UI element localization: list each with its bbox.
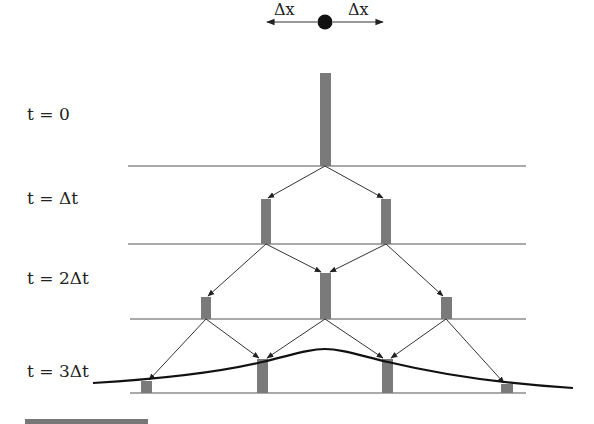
arrow-t1-right-to-center <box>330 244 386 272</box>
bar-t1-right <box>381 199 391 244</box>
footer-bar <box>25 419 148 424</box>
dx-right-text: Δx <box>348 0 369 19</box>
arrow-t0-t1-right <box>325 166 383 198</box>
gaussian-curve <box>93 349 573 388</box>
time-label-t3-text: t = 3Δt <box>27 361 89 381</box>
bar-t2-right <box>441 297 452 319</box>
dx-left-label: Δx <box>274 0 295 19</box>
dx-left-text: Δx <box>274 0 295 19</box>
arrow-t2-right-to-far-right <box>446 319 504 383</box>
bar-t1-left <box>261 199 271 244</box>
arrow-t2-left-to-far-left <box>149 319 206 380</box>
bar-t3-right <box>382 359 393 393</box>
time-label-t3: t = 3Δt <box>27 361 89 381</box>
bar-t3-far-left <box>141 381 152 393</box>
bar-t3-far-right <box>501 384 513 393</box>
particle-dot <box>318 15 333 30</box>
arrow-t1-right-to-right <box>386 244 443 296</box>
dx-right-label: Δx <box>348 0 369 19</box>
bar-t2-left <box>201 297 211 319</box>
arrow-t1-left-to-center <box>266 244 321 272</box>
bar-t2-center <box>320 273 331 319</box>
arrow-t2-center-to-left <box>267 319 325 358</box>
arrow-t2-right-to-right <box>391 319 446 358</box>
arrow-t2-center-to-right <box>325 319 383 358</box>
time-label-t2: t = 2Δt <box>27 268 89 288</box>
time-label-t0: t = 0 <box>27 104 70 124</box>
probability-bars <box>141 73 513 393</box>
arrow-t0-t1-left <box>268 166 325 198</box>
time-label-t2-text: t = 2Δt <box>27 268 89 288</box>
time-label-t1-text: t = Δt <box>27 188 78 208</box>
time-label-t0-text: t = 0 <box>27 104 70 124</box>
time-label-t1: t = Δt <box>27 188 78 208</box>
random-walk-diagram: Δx Δx t = 0 t = Δt t = 2Δt t = 3Δt <box>0 0 594 424</box>
arrow-t1-left-to-left <box>208 244 266 296</box>
arrow-t2-left-to-left <box>206 319 259 358</box>
diagram-canvas <box>0 0 594 424</box>
bar-t3-left <box>257 359 268 393</box>
bar-t0-center <box>320 73 331 166</box>
